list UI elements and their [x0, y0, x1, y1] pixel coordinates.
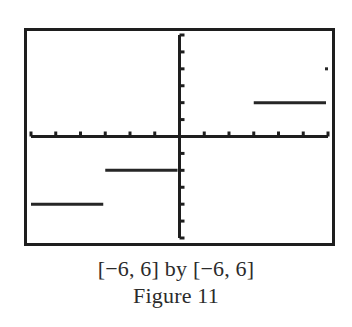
isolated-point — [325, 67, 328, 70]
window-range-caption: [−6, 6] by [−6, 6] — [0, 257, 352, 281]
figure-title: Figure 11 — [0, 284, 352, 308]
